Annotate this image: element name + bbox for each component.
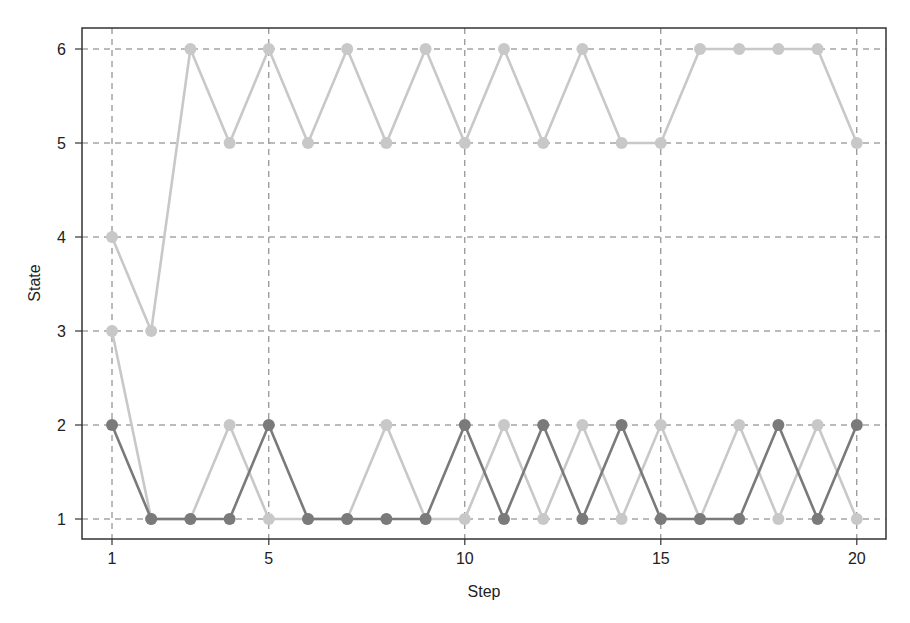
axes: 15101520123456: [57, 41, 866, 567]
data-point: [537, 419, 549, 431]
series-line: [112, 49, 857, 331]
data-point: [616, 419, 628, 431]
data-point: [576, 513, 588, 525]
data-point: [655, 137, 667, 149]
data-point: [145, 325, 157, 337]
data-point: [733, 513, 745, 525]
data-point: [263, 43, 275, 55]
plot-frame: [82, 28, 886, 539]
data-point: [498, 513, 510, 525]
data-point: [341, 43, 353, 55]
data-point: [576, 43, 588, 55]
data-point: [772, 513, 784, 525]
data-point: [145, 513, 157, 525]
line-chart: 15101520123456 Step State: [0, 0, 910, 623]
data-point: [851, 419, 863, 431]
data-point: [184, 43, 196, 55]
data-point: [733, 43, 745, 55]
y-tick-label: 4: [57, 229, 66, 246]
y-tick-label: 5: [57, 135, 66, 152]
y-tick-label: 6: [57, 41, 66, 58]
x-axis-title: Step: [468, 583, 501, 600]
data-point: [380, 137, 392, 149]
data-point: [263, 419, 275, 431]
data-point: [106, 419, 118, 431]
x-tick-label: 10: [456, 550, 474, 567]
x-tick-label: 20: [848, 550, 866, 567]
data-point: [106, 325, 118, 337]
data-point: [616, 137, 628, 149]
data-point: [851, 513, 863, 525]
data-point: [772, 43, 784, 55]
data-point: [772, 419, 784, 431]
data-point: [812, 513, 824, 525]
data-point: [380, 513, 392, 525]
data-point: [459, 513, 471, 525]
data-point: [498, 419, 510, 431]
y-axis-title: State: [26, 264, 43, 301]
data-point: [655, 513, 667, 525]
data-point: [812, 43, 824, 55]
data-point: [459, 419, 471, 431]
data-point: [224, 137, 236, 149]
data-point: [184, 513, 196, 525]
y-tick-label: 1: [57, 511, 66, 528]
y-tick-label: 2: [57, 417, 66, 434]
data-point: [537, 513, 549, 525]
data-point: [224, 513, 236, 525]
data-point: [380, 419, 392, 431]
data-series: [106, 43, 863, 525]
data-point: [459, 137, 471, 149]
data-point: [733, 419, 745, 431]
data-point: [694, 43, 706, 55]
data-point: [498, 43, 510, 55]
data-point: [302, 137, 314, 149]
data-point: [263, 513, 275, 525]
data-point: [616, 513, 628, 525]
data-point: [812, 419, 824, 431]
data-point: [655, 419, 667, 431]
data-point: [341, 513, 353, 525]
data-point: [576, 419, 588, 431]
y-tick-label: 3: [57, 323, 66, 340]
series-upper-light: [106, 43, 863, 337]
x-tick-label: 1: [108, 550, 117, 567]
grid-lines: [82, 28, 886, 539]
data-point: [106, 231, 118, 243]
series-lower-dark: [106, 419, 863, 525]
data-point: [302, 513, 314, 525]
data-point: [537, 137, 549, 149]
data-point: [694, 513, 706, 525]
data-point: [420, 513, 432, 525]
x-tick-label: 15: [652, 550, 670, 567]
x-tick-label: 5: [264, 550, 273, 567]
data-point: [420, 43, 432, 55]
data-point: [851, 137, 863, 149]
data-point: [224, 419, 236, 431]
